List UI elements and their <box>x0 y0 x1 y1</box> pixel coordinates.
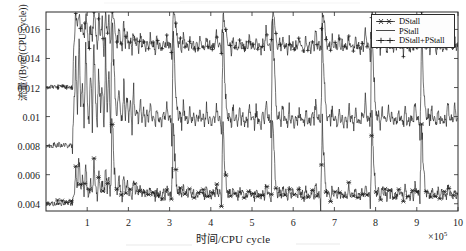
legend-label-dstall-pstall: DStall+PStall <box>399 35 445 45</box>
legend-marker-star-icon <box>375 17 396 26</box>
x-axis-exponent: ×105 <box>428 231 447 242</box>
legend-label-dstall: DStall <box>399 16 420 26</box>
chart-figure: 0.0040.0060.0080.010.0120.0140.016 12345… <box>0 0 466 251</box>
x-tick-label: 10 <box>453 217 463 228</box>
legend-item-dstall-pstall: DStall+PStall <box>375 36 451 46</box>
x-tick-label: 2 <box>126 217 131 228</box>
legend-marker-line-icon <box>375 26 396 35</box>
chart-legend: DStall PStall DStall+PStall <box>371 14 455 48</box>
y-tick-label: 0.004 <box>0 198 40 209</box>
y-tick-label: 0.008 <box>0 140 40 151</box>
x-axis-title: 时间/CPU cycle <box>0 230 466 246</box>
x-tick-label: 8 <box>373 217 378 228</box>
legend-item-pstall: PStall <box>375 26 451 36</box>
x-axis-exponent-base: ×10 <box>428 231 444 242</box>
x-axis-exponent-power: 5 <box>444 230 448 238</box>
x-tick-label: 5 <box>250 217 255 228</box>
x-tick-label: 9 <box>414 217 419 228</box>
legend-item-dstall: DStall <box>375 17 451 27</box>
y-tick-label: 0.006 <box>0 169 40 180</box>
x-tick-label: 4 <box>208 217 213 228</box>
x-tick-label: 1 <box>85 217 90 228</box>
legend-marker-plus-icon <box>375 36 396 45</box>
x-tick-label: 7 <box>332 217 337 228</box>
x-tick-label: 3 <box>167 217 172 228</box>
x-tick-label: 6 <box>291 217 296 228</box>
y-axis-title: 流量/(Byte/(CPU cycle)) <box>19 0 29 133</box>
legend-label-pstall: PStall <box>399 26 419 36</box>
